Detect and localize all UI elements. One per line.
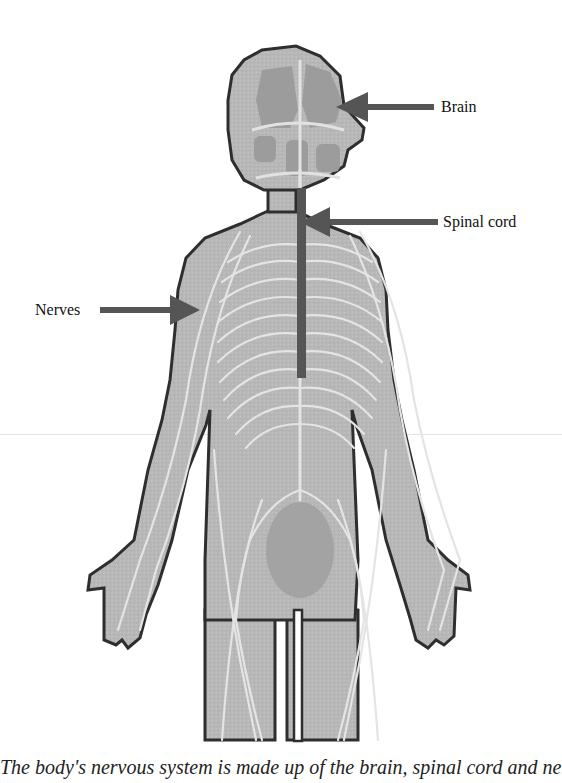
label-spinal-cord: Spinal cord [443, 214, 516, 230]
label-nerves: Nerves [35, 302, 80, 318]
pelvis-shape [266, 502, 334, 598]
spinal-cord-shape [297, 188, 306, 378]
label-brain: Brain [441, 99, 477, 115]
figure-caption: The body's nervous system is made up of … [0, 756, 562, 783]
